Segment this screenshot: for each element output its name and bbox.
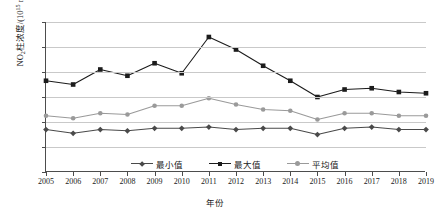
data-point: [288, 108, 293, 113]
data-point: [234, 102, 239, 107]
x-axis-tick: [426, 172, 427, 176]
x-axis-tick: [263, 172, 264, 176]
legend-swatch-icon: [209, 160, 231, 168]
data-point: [369, 124, 375, 130]
data-point: [397, 90, 402, 95]
data-point: [179, 103, 184, 108]
data-point: [342, 125, 348, 131]
data-point: [397, 113, 402, 118]
data-point: [179, 125, 185, 131]
data-point: [70, 130, 76, 136]
gridline: [46, 122, 426, 123]
data-point: [396, 127, 402, 133]
data-point: [206, 124, 212, 130]
x-axis-tick: [236, 172, 237, 176]
x-axis-tick: [46, 172, 47, 176]
data-point: [369, 86, 374, 91]
legend-label: 平均值: [312, 158, 339, 170]
x-axis-tick-label: 2019: [409, 178, 439, 186]
data-point: [423, 127, 429, 133]
x-axis-tick: [290, 172, 291, 176]
x-axis-tick: [127, 172, 128, 176]
data-point: [287, 125, 293, 131]
y-axis-tick: [42, 47, 46, 48]
x-axis-label: 年份: [0, 196, 430, 208]
legend-swatch-icon: [287, 160, 309, 168]
data-point: [342, 111, 347, 116]
y-axis-tick: [42, 22, 46, 23]
y-axis-tick: [42, 147, 46, 148]
data-point: [43, 127, 49, 133]
gridline: [46, 47, 426, 48]
data-point: [44, 78, 49, 83]
data-point: [125, 112, 130, 117]
data-point: [125, 73, 130, 78]
data-point: [233, 127, 239, 133]
data-point: [152, 61, 157, 66]
legend-label: 最大值: [234, 158, 261, 170]
x-axis-tick: [182, 172, 183, 176]
gridline: [46, 72, 426, 73]
x-axis-tick: [399, 172, 400, 176]
data-point: [424, 91, 429, 96]
series-square: [44, 35, 429, 100]
x-axis-tick: [345, 172, 346, 176]
y-axis-label-text: NO2柱浓度/(1015 mol/cm2): [15, 0, 25, 66]
data-point: [369, 111, 374, 116]
data-point: [44, 113, 49, 118]
y-axis-tick: [42, 97, 46, 98]
legend-swatch-icon: [131, 160, 153, 168]
x-axis-tick: [372, 172, 373, 176]
data-point: [261, 63, 266, 68]
gridline: [46, 22, 426, 23]
data-point: [97, 127, 103, 133]
x-axis-tick: [317, 172, 318, 176]
legend-label: 最小值: [156, 158, 183, 170]
legend-item-circle[interactable]: 平均值: [287, 158, 339, 170]
x-axis-tick: [155, 172, 156, 176]
x-axis-tick: [73, 172, 74, 176]
y-axis-label: NO2柱浓度/(1015 mol/cm2): [13, 0, 26, 94]
legend-item-diamond[interactable]: 最小值: [131, 158, 183, 170]
y-axis-tick: [42, 122, 46, 123]
data-point: [152, 125, 158, 131]
y-axis-tick: [42, 72, 46, 73]
data-point: [207, 35, 212, 40]
gridline: [46, 147, 426, 148]
plot-area: 0246810122005200620072008200920102011201…: [45, 22, 425, 172]
chart-legend: 最小值最大值平均值: [45, 158, 425, 170]
data-point: [152, 103, 157, 108]
series-circle: [44, 96, 429, 122]
series-line: [46, 98, 426, 119]
data-point: [260, 125, 266, 131]
x-axis-tick: [100, 172, 101, 176]
data-point: [342, 87, 347, 92]
series-line: [46, 37, 426, 97]
data-point: [98, 111, 103, 116]
legend-item-square[interactable]: 最大值: [209, 158, 261, 170]
data-point: [288, 78, 293, 83]
data-point: [71, 82, 76, 87]
data-point: [71, 116, 76, 121]
gridline: [46, 97, 426, 98]
data-point: [315, 132, 321, 138]
data-point: [261, 107, 266, 112]
data-point: [125, 128, 131, 134]
data-point: [424, 113, 429, 118]
series-diamond: [43, 124, 429, 137]
x-axis-tick: [209, 172, 210, 176]
